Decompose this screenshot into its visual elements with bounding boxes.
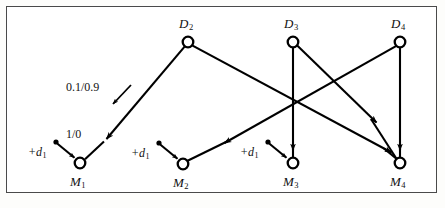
diagram-canvas [0, 0, 445, 208]
probability-pointer-arrow [113, 85, 131, 104]
edge-line-D2-M1 [107, 47, 185, 139]
input-line-M3 [270, 144, 287, 158]
edge-D2-M1 [85, 47, 185, 160]
edge-line-D3-M4 [297, 46, 376, 123]
node-label-D4: D4 [391, 17, 405, 32]
figure-root: D2 D3 D4 M1 M2 M3 M4 0.1/0.9 1/0 +d1 +d1… [0, 0, 445, 208]
input-label-M3: +d1 [240, 146, 259, 160]
input-arrow-M2 [156, 140, 177, 158]
node-M2[interactable] [178, 159, 189, 170]
edge-label-cost: 1/0 [66, 128, 81, 140]
edge-D3-M4 [297, 46, 396, 159]
node-D2[interactable] [183, 37, 194, 48]
input-line-M1 [58, 144, 75, 158]
edge-tail-M1 [85, 142, 104, 160]
node-label-M3: M3 [283, 175, 299, 190]
input-label-M2: +d1 [131, 147, 150, 161]
input-arrow-M1 [53, 139, 74, 157]
node-label-M1: M1 [70, 175, 86, 190]
node-M3[interactable] [288, 158, 299, 169]
node-label-M2: M2 [173, 176, 189, 191]
input-arrow-M3 [265, 139, 286, 157]
node-M4[interactable] [395, 158, 406, 169]
edge-label-probability: 0.1/0.9 [66, 81, 99, 93]
node-D3[interactable] [288, 37, 299, 48]
node-label-M4: M4 [390, 175, 406, 190]
edge-tail-D4-M2 [188, 141, 228, 161]
input-line-M2 [161, 145, 178, 159]
input-label-M1: +d1 [28, 146, 47, 160]
edge-tail-D3-M4 [371, 119, 396, 158]
node-M1[interactable] [75, 158, 86, 169]
node-label-D3: D3 [284, 17, 298, 32]
node-label-D2: D2 [179, 17, 193, 32]
edge-line-D4-M2 [225, 46, 397, 143]
node-D4[interactable] [395, 37, 406, 48]
